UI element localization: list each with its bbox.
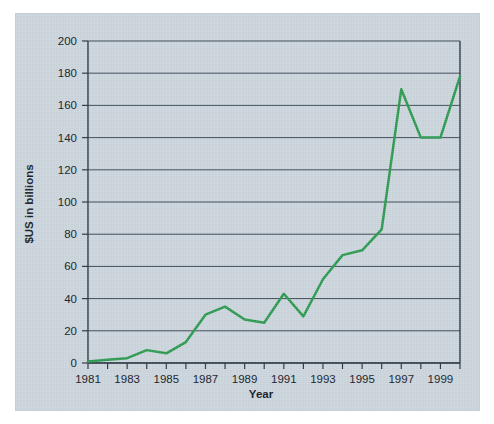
- chart-figure-panel: 020406080100120140160180200 198119831985…: [16, 14, 479, 410]
- x-tick-label-1995: 1995: [349, 373, 375, 385]
- y-tick-label-100: 100: [58, 196, 77, 208]
- y-tick-label-120: 120: [58, 164, 77, 176]
- x-tick-label-1981: 1981: [75, 373, 101, 385]
- tickmarks-group: [82, 41, 460, 369]
- gridlines-group: [88, 41, 460, 363]
- y-tick-label-180: 180: [58, 67, 77, 79]
- x-tick-label-1987: 1987: [193, 373, 219, 385]
- y-axis-title: $US in billions: [23, 164, 35, 243]
- x-tick-label-1997: 1997: [388, 373, 414, 385]
- y-tick-label-20: 20: [64, 325, 77, 337]
- x-tick-label-1993: 1993: [310, 373, 336, 385]
- y-tick-label-40: 40: [64, 293, 77, 305]
- y-tick-label-140: 140: [58, 132, 77, 144]
- y-tick-label-160: 160: [58, 99, 77, 111]
- x-tick-labels-group: 1981198319851987198919911993199519971999: [75, 373, 453, 385]
- data-series-group: [88, 76, 460, 361]
- y-tick-label-80: 80: [64, 228, 77, 240]
- y-tick-labels-group: 020406080100120140160180200: [58, 35, 77, 369]
- line-chart: 020406080100120140160180200 198119831985…: [16, 14, 479, 410]
- x-tick-label-1991: 1991: [271, 373, 297, 385]
- y-tick-label-60: 60: [64, 260, 77, 272]
- x-axis-title: Year: [249, 388, 274, 400]
- x-tick-label-1985: 1985: [154, 373, 180, 385]
- x-tick-label-1983: 1983: [114, 373, 140, 385]
- x-tick-label-1999: 1999: [428, 373, 454, 385]
- y-tick-label-0: 0: [71, 357, 77, 369]
- y-tick-label-200: 200: [58, 35, 77, 47]
- x-tick-label-1989: 1989: [232, 373, 258, 385]
- series-line-0: [88, 76, 460, 361]
